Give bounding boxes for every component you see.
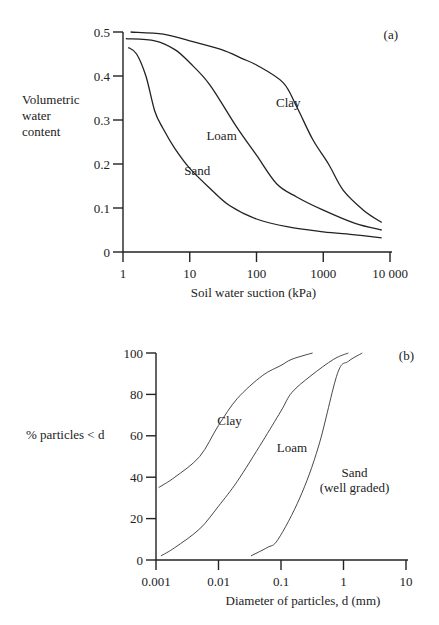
panel-label: (b): [399, 348, 414, 363]
y-tick-label: 0: [137, 553, 144, 568]
y-tick-label: 100: [124, 346, 144, 361]
chart-b-particle-size: 0204060801000.0010.010.1110Diameter of p…: [0, 310, 439, 625]
y-tick-label: 0: [104, 245, 111, 260]
curve-label: Sand: [184, 163, 211, 178]
x-tick-label: 1: [120, 266, 127, 281]
curve-loam: [161, 353, 349, 556]
curve-label: Clay: [217, 413, 242, 428]
x-tick-label: 0.01: [207, 574, 230, 589]
curve-label: (well graded): [320, 480, 390, 495]
y-tick-label: 20: [130, 511, 143, 526]
y-axis-label: % particles < d: [26, 427, 105, 442]
curve-label: Clay: [276, 95, 301, 110]
curve-label: Loam: [277, 440, 307, 455]
y-tick-label: 0.3: [94, 113, 110, 128]
curve-loam: [126, 39, 382, 230]
curve-clay: [131, 32, 382, 223]
curve-label: Sand: [342, 465, 369, 480]
y-tick-label: 40: [130, 470, 143, 485]
y-axis-label: Volumetric: [22, 92, 80, 107]
y-tick-label: 60: [130, 428, 143, 443]
x-tick-label: 0.001: [141, 574, 170, 589]
x-tick-label: 0.1: [273, 574, 289, 589]
x-tick-label: 1000: [310, 266, 336, 281]
x-axis-label: Soil water suction (kPa): [191, 285, 316, 300]
y-tick-label: 80: [130, 387, 143, 402]
curve-label: Loam: [206, 128, 236, 143]
y-axis-label: water: [22, 108, 52, 123]
chart-a-water-retention: 00.10.20.30.40.5110100100010 000Soil wat…: [0, 0, 439, 310]
x-tick-label: 1: [340, 574, 347, 589]
y-tick-label: 0.4: [94, 69, 111, 84]
y-tick-label: 0.1: [94, 201, 110, 216]
x-tick-label: 10 000: [372, 266, 408, 281]
y-tick-label: 0.2: [94, 157, 110, 172]
x-tick-label: 100: [247, 266, 267, 281]
y-axis-label: content: [22, 124, 61, 139]
x-tick-label: 10: [400, 574, 413, 589]
x-axis-label: Diameter of particles, d (mm): [226, 593, 381, 608]
y-tick-label: 0.5: [94, 25, 110, 40]
curve-sand: [128, 47, 381, 238]
x-tick-label: 10: [183, 266, 196, 281]
panel-label: (a): [384, 27, 398, 42]
